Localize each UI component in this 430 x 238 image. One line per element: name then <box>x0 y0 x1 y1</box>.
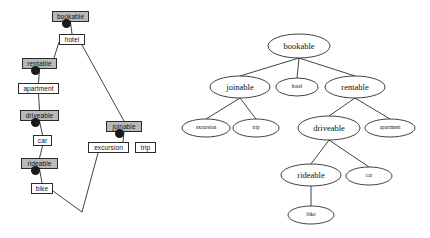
tree-node-label-joinable: joinable <box>210 83 270 92</box>
figure-canvas: bookablerentabledriveablerideablejoinabl… <box>0 0 430 238</box>
right-tree-diagram: bookablejoinablehotelrentableexcursiontr… <box>0 0 430 238</box>
edge-rentable-driveable <box>329 98 355 116</box>
edge-rentable-apartment <box>355 98 390 119</box>
tree-node-label-car: car <box>346 173 392 178</box>
edge-bookable-rentable <box>299 58 355 76</box>
edge-driveable-car <box>329 140 369 167</box>
tree-node-label-excursion: excursion <box>182 125 230 130</box>
edge-joinable-excursion <box>206 98 240 119</box>
edge-bookable-hotel <box>297 58 299 78</box>
tree-node-label-driveable: driveable <box>298 124 360 133</box>
right-diagram-edges <box>0 0 430 238</box>
tree-node-label-trip: trip <box>233 125 279 130</box>
tree-node-label-rideable: rideable <box>281 171 341 180</box>
tree-node-label-apartment: apartment <box>365 125 415 130</box>
edge-bookable-joinable <box>240 58 299 76</box>
tree-node-label-hotel: hotel <box>276 84 318 89</box>
tree-node-label-bike: bike <box>288 212 334 217</box>
tree-node-label-rentable: rentable <box>325 83 385 92</box>
edge-joinable-trip <box>240 98 256 119</box>
tree-node-label-bookable: bookable <box>268 42 330 51</box>
edge-driveable-rideable <box>311 140 329 164</box>
